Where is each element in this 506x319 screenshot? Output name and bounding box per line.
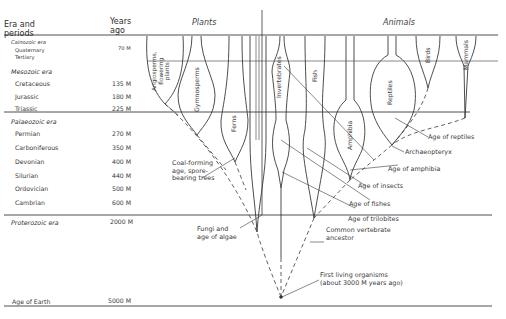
amphibia-shape (334, 36, 365, 180)
animals-title: Animals (383, 19, 415, 27)
origin-point (280, 296, 283, 299)
label-angiosperms: Angiosperms,floweringplants (151, 51, 171, 91)
period-tertiary: Tertiary (15, 55, 34, 60)
era-header: Era andperiods (4, 20, 35, 38)
years-ordovician: 500 M (112, 186, 131, 192)
annotation-age-of-amphibia: Age of amphibia (388, 166, 440, 174)
years-silurian: 440 M (112, 173, 131, 179)
period-ordovician: Ordovician (15, 186, 48, 192)
period-devonian: Devonian (15, 159, 44, 165)
years-proterozoic: 2000 M (110, 219, 133, 225)
years-devonian: 400 M (112, 159, 131, 165)
label-mammals: Mammals (462, 40, 469, 70)
era-palaeozoic: Palaeozoic era (11, 119, 57, 125)
label-fish: Fish (311, 70, 318, 82)
years-cretaceous: 135 M (112, 81, 131, 87)
period-silurian: Silurian (15, 173, 38, 179)
annotation-coal-forming: Coal-formingage, spore-bearing trees (172, 160, 215, 183)
age-of-earth-years: 5000 M (108, 298, 131, 304)
period-cambrian: Cambrian (15, 200, 45, 206)
annotation-age-of-fishes: Age of fishes (349, 201, 390, 209)
years-cambrian: 600 M (112, 200, 131, 206)
label-gymnosperms: Gymnosperms (193, 67, 200, 112)
label-birds: Birds (424, 47, 431, 63)
period-jurassic: Jurassic (15, 94, 39, 100)
era-cainozoic: Cainozoic era (11, 40, 46, 45)
period-permian: Permian (15, 131, 40, 137)
evolution-timeline-diagram: Era andperiods Yearsago Plants Animals C… (0, 0, 506, 319)
period-carboniferous: Carboniferous (15, 145, 58, 151)
era-mesozoic: Mesozoic era (11, 69, 52, 75)
annotation-age-of-insects: Age of insects (358, 183, 403, 191)
age-of-earth-label: Age of Earth (12, 299, 50, 305)
fungi-algae-shape (250, 36, 266, 232)
years-triassic: 225 M (112, 106, 131, 112)
annotation-age-of-reptiles: Age of reptiles (428, 134, 474, 142)
ferns-shape (221, 36, 248, 162)
label-amphibia: Amphibia (346, 121, 353, 150)
annotation-common-vertebrate-ancestor: Common vertebrateancestor (326, 227, 391, 242)
period-triassic: Triassic (15, 106, 38, 112)
fish-shape (303, 36, 325, 218)
label-ferns: Ferns (230, 115, 237, 132)
label-reptiles: Reptiles (386, 80, 393, 105)
label-invertebrates: Invertebrates (275, 56, 282, 98)
years-jurassic: 180 M (112, 94, 131, 100)
annotation-archaeopteryx: Archaeopteryx (405, 149, 452, 157)
plants-title: Plants (192, 19, 216, 27)
years-carboniferous: 350 M (112, 145, 131, 151)
annotation-first-living-organisms: First living organisms(about 3000 M year… (320, 272, 403, 287)
years-permian: 270 M (112, 131, 131, 137)
annotation-age-of-trilobites: Age of trilobites (348, 216, 399, 224)
period-quaternary: Quaternary (15, 48, 45, 53)
years-header: Yearsago (110, 17, 131, 35)
era-proterozoic: Proterozoic era (11, 220, 59, 226)
annotation-fungi-algae: Fungi andage of algae (197, 226, 237, 241)
years-tertiary: 70 M (118, 46, 131, 51)
period-cretaceous: Cretaceous (15, 81, 50, 87)
